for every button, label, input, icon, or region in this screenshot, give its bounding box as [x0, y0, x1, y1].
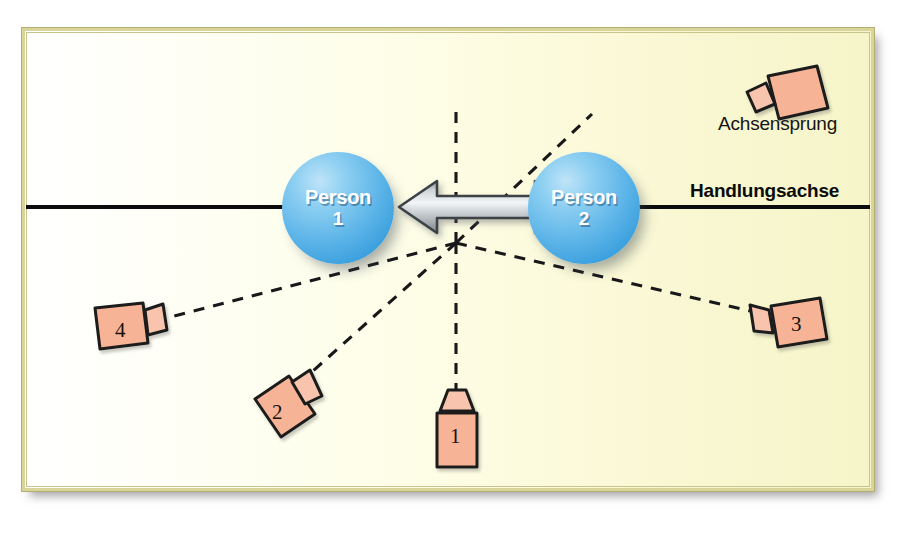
camera-1-number: 1	[450, 424, 461, 449]
diagram-graphics	[0, 0, 903, 537]
person-1-number: 1	[333, 209, 343, 230]
figure-stage: ···· ·· ····· ··· ·····	[0, 0, 903, 537]
camera-2-number: 2	[272, 400, 283, 425]
camera-3-number: 3	[791, 312, 802, 337]
person-2-number: 2	[579, 209, 589, 230]
sightlines	[163, 110, 750, 392]
person-1-name: Person	[305, 187, 371, 209]
camera-jump-icon	[747, 66, 828, 119]
person-2-node[interactable]: Person 2	[528, 152, 640, 264]
camera-4-icon	[95, 303, 167, 349]
person-1-node[interactable]: Person 1	[282, 152, 394, 264]
camera-2-icon	[255, 370, 322, 437]
handlungsachse-label: Handlungsachse	[690, 180, 839, 202]
camera-3-icon	[750, 298, 827, 347]
achsensprung-label: Achsensprung	[718, 113, 837, 135]
person-2-name: Person	[551, 187, 617, 209]
sightline-camera-2	[304, 243, 456, 379]
camera-4-number: 4	[115, 318, 126, 343]
